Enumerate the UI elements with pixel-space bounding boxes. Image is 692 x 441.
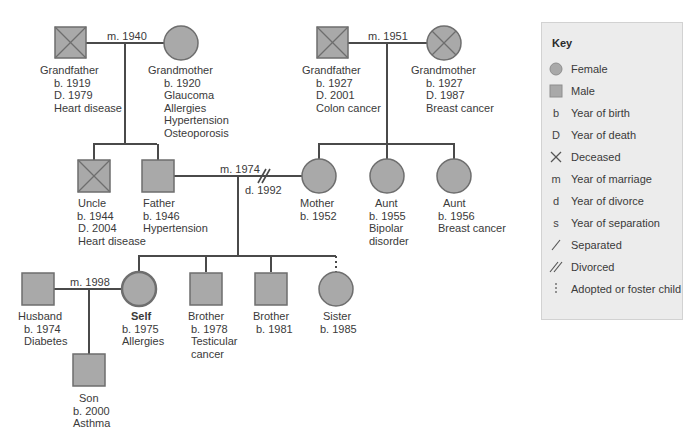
female-symbol-sister xyxy=(319,272,353,306)
divorce-label: d. 1992 xyxy=(245,184,282,196)
legend-item-marriage: m Year of marriage xyxy=(548,171,652,187)
marriage-label: m. 1951 xyxy=(368,30,408,42)
male-symbol-brother1 xyxy=(190,273,222,305)
dotted-line-icon xyxy=(548,281,564,297)
person-label-self: Self b. 1975 Allergies xyxy=(122,310,164,348)
female-symbol-mother xyxy=(302,159,336,193)
legend-item-birth: b Year of birth xyxy=(548,105,630,121)
legend-item-deceased: Deceased xyxy=(548,149,621,165)
legend-item-death: D Year of death xyxy=(548,127,636,143)
single-slash-icon xyxy=(548,237,564,253)
person-label-pat-grandfather: Grandfather b. 1919 D. 1979 Heart diseas… xyxy=(40,64,122,114)
person-label-brother1: Brother b. 1978 Testicular cancer xyxy=(188,310,237,360)
birth-letter-icon: b xyxy=(548,105,564,121)
male-symbol-brother2 xyxy=(255,273,287,305)
female-symbol-pat-grandmother xyxy=(164,26,198,60)
death-letter-icon: D xyxy=(548,127,564,143)
legend-key: Key Female Male b Year of birth D Year o… xyxy=(541,22,683,320)
person-label-mat-grandmother: Grandmother b. 1927 D. 1987 Breast cance… xyxy=(411,64,494,114)
legend-title: Key xyxy=(552,37,572,49)
person-label-uncle: Uncle b. 1944 D. 2004 Heart disease xyxy=(78,197,146,247)
female-symbol-aunt2 xyxy=(437,159,471,193)
double-slash-icon xyxy=(548,259,564,275)
legend-item-separation-year: s Year of separation xyxy=(548,215,660,231)
marriage-letter-icon: m xyxy=(548,171,564,187)
genogram: m. 1940 m. 1951 m. 1974 d. 1992 m. 1998 … xyxy=(0,0,692,441)
separation-letter-icon: s xyxy=(548,215,564,231)
female-symbol-aunt1 xyxy=(370,159,404,193)
marriage-label: m. 1998 xyxy=(70,276,110,288)
marriage-label: m. 1940 xyxy=(107,30,147,42)
legend-item-female: Female xyxy=(548,61,608,77)
divorce-letter-icon: d xyxy=(548,193,564,209)
person-label-husband: Husband b. 1974 Diabetes xyxy=(18,310,67,348)
person-label-son: Son b. 2000 Asthma xyxy=(73,392,110,430)
deceased-x-icon xyxy=(548,149,564,165)
person-label-mother: Mother b. 1952 xyxy=(300,197,337,222)
male-symbol-father xyxy=(142,160,174,192)
male-square-icon xyxy=(548,83,564,99)
legend-item-adopted: Adopted or foster child xyxy=(548,281,681,297)
female-symbol-self xyxy=(122,272,156,306)
male-symbol-son xyxy=(73,354,105,386)
person-label-aunt2: Aunt b. 1956 Breast cancer xyxy=(438,197,506,235)
legend-item-divorced: Divorced xyxy=(548,259,614,275)
person-label-pat-grandmother: Grandmother b. 1920 Glaucoma Allergies H… xyxy=(148,64,229,139)
legend-item-separated: Separated xyxy=(548,237,622,253)
male-symbol-husband xyxy=(22,273,54,305)
person-label-mat-grandfather: Grandfather b. 1927 D. 2001 Colon cancer xyxy=(302,64,381,114)
legend-item-male: Male xyxy=(548,83,595,99)
marriage-label: m. 1974 xyxy=(220,163,260,175)
person-label-sister: Sister b. 1985 xyxy=(320,310,357,335)
person-label-aunt1: Aunt b. 1955 Bipolar disorder xyxy=(369,197,409,247)
legend-item-divorce-year: d Year of divorce xyxy=(548,193,644,209)
person-label-brother2: Brother b. 1981 xyxy=(253,310,293,335)
female-circle-icon xyxy=(548,61,564,77)
person-label-father: Father b. 1946 Hypertension xyxy=(143,197,208,235)
